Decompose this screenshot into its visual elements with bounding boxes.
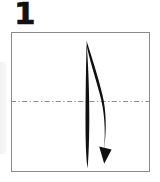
fold-direction-arrow-icon <box>86 41 112 169</box>
origami-step-figure: 1 <box>0 0 160 182</box>
diagram-vector-layer <box>0 0 160 182</box>
